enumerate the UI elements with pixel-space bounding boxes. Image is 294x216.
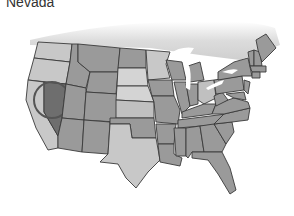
state-nebraska [116,86,154,102]
state-ohio [198,80,216,104]
state-wyoming [86,72,118,94]
state-florida [192,152,236,194]
state-new-mexico [82,120,110,154]
state-new-jersey [244,80,250,94]
state-connecticut [252,72,260,78]
state-minnesota [146,50,170,80]
state-north-dakota [118,48,146,68]
state-new-york [218,58,252,80]
state-south-dakota [117,68,148,86]
state-montana [78,44,120,72]
state-missouri [152,96,180,124]
state-arizona [58,118,84,152]
state-mississippi [174,128,186,156]
state-kansas [116,100,154,118]
state-oregon [28,58,70,84]
state-arkansas [156,124,176,144]
us-map [0,0,294,216]
state-iowa [148,80,174,96]
state-massachusetts [250,66,266,72]
lake-huron [204,62,210,76]
state-utah [62,84,86,120]
state-colorado [84,92,118,122]
